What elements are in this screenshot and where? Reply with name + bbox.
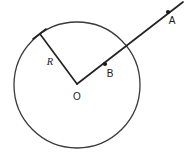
point-b-dot-icon (103, 62, 107, 66)
label-radius-r: R (47, 57, 53, 68)
main-circle (14, 22, 140, 148)
label-center-o: O (73, 92, 81, 102)
radius-endpoint-tick-icon (33, 29, 46, 39)
radius-segment (40, 34, 77, 84)
label-point-b: B (107, 69, 114, 79)
geometry-diagram: O R A B (0, 0, 188, 156)
point-a-dot-icon (166, 10, 170, 14)
label-point-a: A (169, 16, 176, 26)
diagram-canvas (0, 0, 188, 156)
ray-oa (77, 2, 183, 84)
